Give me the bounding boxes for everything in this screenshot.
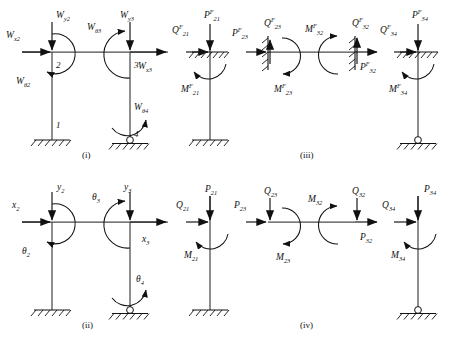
label-Q32: Q32 <box>352 186 366 198</box>
label-x2: x2 <box>11 200 20 212</box>
label-x3: x3 <box>141 234 149 246</box>
pinned-support-column-34 <box>397 137 437 150</box>
arrow-theta3 <box>104 201 130 248</box>
caption-ii: (ii) <box>82 320 93 330</box>
arrow-theta4 <box>112 290 146 306</box>
label-Wtheta2: Wθ2 <box>16 76 31 88</box>
arrow-M32 <box>318 206 338 244</box>
label-M32: M32 <box>307 194 323 206</box>
label-M32F: MF32 <box>304 22 324 36</box>
label-y2: y2 <box>56 182 65 194</box>
pinned-support-node-4-ii <box>109 307 149 320</box>
label-P21: P21 <box>204 184 217 196</box>
fixed-support-column-21 <box>189 140 229 146</box>
label-Wtheta4: Wθ4 <box>134 102 149 114</box>
fixed-support-node-1 <box>31 140 71 146</box>
label-Q21: Q21 <box>176 200 189 212</box>
panel-iii-member-21: QF21 PF21 MF21 <box>172 8 229 146</box>
label-theta2: θ2 <box>22 246 31 258</box>
label-P23F: PF23 <box>231 26 248 40</box>
arrow-M34 <box>404 234 436 249</box>
label-Wy3: Wy3 <box>120 10 134 22</box>
fixed-support-column-21-iv <box>189 310 229 316</box>
label-Wx3: Wx3 <box>138 61 152 73</box>
arrow-Wtheta3 <box>104 31 130 78</box>
pinned-support-column-34-iv <box>397 307 437 320</box>
label-P32F: PF32 <box>359 60 377 74</box>
panel-iv-member-23: P23 Q23 M23 M32 Q32 P32 <box>233 186 377 264</box>
label-M21F: MF21 <box>180 82 199 96</box>
caption-i: (i) <box>82 150 91 160</box>
arrow-M23F <box>282 38 301 74</box>
node-1-label-2: 2 <box>56 60 61 70</box>
arrow-M21 <box>196 234 228 249</box>
label-P34: P34 <box>423 184 437 196</box>
label-Q23F: QF23 <box>264 16 281 30</box>
arrow-Wtheta2 <box>47 34 75 74</box>
panel-iii-member-23: PF23 QF23 MF23 MF32 QF32 PF32 <box>231 16 377 96</box>
caption-iii: (iii) <box>300 150 314 160</box>
panel-ii: x2 y2 θ2 θ3 y3 x3 θ4 (ii) <box>11 182 168 330</box>
label-Q34: Q34 <box>382 200 396 212</box>
fixed-support-node-1-ii <box>31 310 71 316</box>
label-M23: M23 <box>275 252 290 264</box>
label-Q34F: QF34 <box>380 23 398 37</box>
label-theta4: θ4 <box>136 274 145 286</box>
label-Q23: Q23 <box>264 186 277 198</box>
arrow-Wtheta4 <box>112 120 146 136</box>
label-M21: M21 <box>183 250 198 262</box>
label-M34: M34 <box>390 250 406 262</box>
label-M34F: MF34 <box>388 82 408 96</box>
label-Q32F: QF32 <box>352 16 370 30</box>
label-Wx2: Wx2 <box>6 30 21 42</box>
pinned-support-node-4 <box>109 137 149 150</box>
panel-iv-member-34: Q34 P34 M34 (iv) <box>300 184 437 330</box>
label-Q21F: QF21 <box>172 23 189 37</box>
arrow-theta2 <box>47 204 75 244</box>
panel-iv-member-21: Q21 P21 M21 <box>176 184 229 316</box>
node-1-label: 1 <box>56 120 61 130</box>
arrow-M32F <box>318 36 338 74</box>
caption-iv: (iv) <box>300 320 313 330</box>
label-theta3: θ3 <box>92 192 100 204</box>
label-Wtheta3: Wθ3 <box>87 22 101 34</box>
panel-i: 2 3 1 4 Wx2 Wy2 <box>6 10 168 160</box>
label-P21F: PF21 <box>203 8 220 22</box>
label-P34F: PF34 <box>411 8 429 22</box>
label-P23: P23 <box>233 200 246 212</box>
label-P32: P32 <box>359 232 373 244</box>
arrow-M23 <box>282 208 301 244</box>
label-Wy2: Wy2 <box>56 10 71 22</box>
structural-frame-figure: 2 3 1 4 Wx2 Wy2 <box>0 0 466 345</box>
label-y3: y3 <box>123 182 131 194</box>
label-M23F: MF23 <box>273 82 292 96</box>
